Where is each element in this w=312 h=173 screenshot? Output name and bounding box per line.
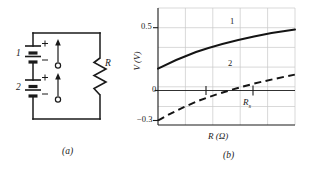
x-axis-label: R (Ω) [208, 131, 228, 141]
voltage-resistance-plot-panel: V (V) R (Ω) 0.5 0 −0.3 1 2 Rs [150, 0, 312, 173]
circuit-diagram-panel: 1 2 R [0, 0, 150, 173]
cell-2-polarity-marks [42, 75, 48, 95]
rs-annotation-label: Rs [243, 97, 251, 109]
curve-1-solid [158, 30, 295, 69]
battery-cell-2-label: 2 [16, 82, 21, 92]
y-axis-label: V (V) [132, 51, 142, 70]
rs-subscript: s [249, 102, 252, 109]
cell-1-current-arrow [55, 39, 61, 68]
plot-gridlines [158, 8, 295, 125]
plot-axes [158, 8, 295, 125]
battery-cell-1 [25, 46, 41, 62]
curve-2-dashed [158, 75, 295, 121]
battery-cell-2 [25, 80, 41, 96]
curve-1-label: 1 [230, 16, 234, 26]
figure-container: 1 2 R (a) [0, 0, 312, 173]
cell-2-current-arrow [55, 73, 61, 102]
y-axis-ticks [153, 28, 158, 121]
panel-b-caption: (b) [223, 150, 234, 160]
cell-1-polarity-marks [42, 41, 48, 61]
y-tick-label-zero: 0 [152, 84, 156, 94]
curve-2-label: 2 [228, 58, 232, 68]
y-tick-label-upper: 0.5 [141, 21, 152, 31]
y-tick-label-lower: −0.3 [137, 114, 152, 124]
battery-cell-1-label: 1 [16, 48, 21, 58]
panel-a-caption: (a) [62, 146, 73, 156]
resistor-label: R [105, 58, 111, 68]
circuit-schematic [0, 0, 150, 173]
